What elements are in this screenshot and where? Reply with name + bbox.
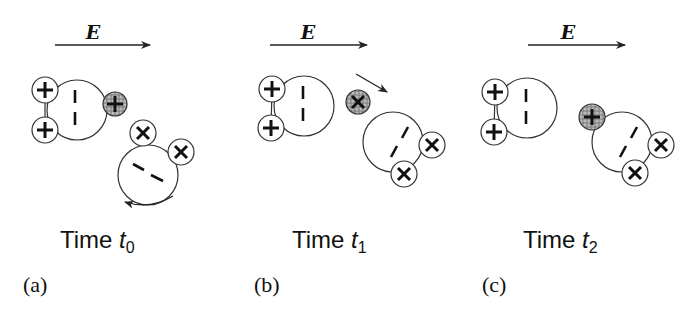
- shaded-ion: [346, 90, 370, 114]
- panel-label-c: (c): [482, 272, 506, 297]
- water-molecule-lower: [118, 120, 194, 205]
- water-molecule-upper: [481, 78, 557, 145]
- water-molecule-lower: [592, 112, 674, 186]
- time-label-a: Time t0: [60, 226, 135, 256]
- field-arrow-b: E: [270, 21, 367, 45]
- shaded-ion: [579, 104, 605, 130]
- field-label: E: [300, 21, 316, 43]
- water-molecule-lower: [363, 112, 445, 187]
- figure-canvas: E: [0, 0, 699, 313]
- time-label-c: Time t2: [523, 226, 598, 256]
- water-molecule-upper: [32, 77, 107, 143]
- field-arrow-c: E: [528, 21, 625, 45]
- panel-label-a: (a): [23, 272, 47, 297]
- panel-a: E: [23, 21, 194, 297]
- oxygen-atom: [363, 112, 423, 172]
- dipole-ion-transfer-figure: E: [0, 0, 699, 313]
- motion-arrow-icon: [356, 74, 387, 92]
- field-label: E: [560, 21, 576, 43]
- panel-label-b: (b): [254, 272, 280, 297]
- panel-b: E: [254, 21, 445, 297]
- panel-c: E: [481, 21, 674, 297]
- shaded-ion: [103, 92, 127, 116]
- field-label: E: [85, 21, 101, 43]
- time-label-b: Time t1: [292, 226, 367, 256]
- water-molecule-upper: [258, 76, 334, 141]
- field-arrow-a: E: [55, 21, 150, 45]
